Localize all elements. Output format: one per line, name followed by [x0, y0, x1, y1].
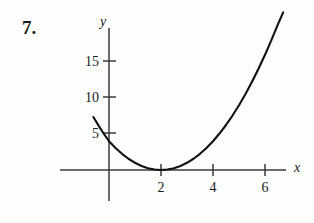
x-tick-label-2: 2 — [158, 180, 165, 195]
parabola-figure: 2 4 6 5 10 15 y x — [0, 0, 314, 223]
y-tick-label-5: 5 — [92, 126, 99, 141]
y-axis-label: y — [98, 14, 107, 29]
parabola-curve — [93, 12, 283, 170]
x-tick-label-4: 4 — [210, 180, 217, 195]
y-tick-label-15: 15 — [85, 54, 99, 69]
x-tick-label-6: 6 — [262, 180, 269, 195]
x-axis-label: x — [293, 160, 301, 175]
figure-screenshot: 7. 2 4 6 5 10 15 y x — [0, 0, 314, 223]
y-tick-label-10: 10 — [85, 90, 99, 105]
